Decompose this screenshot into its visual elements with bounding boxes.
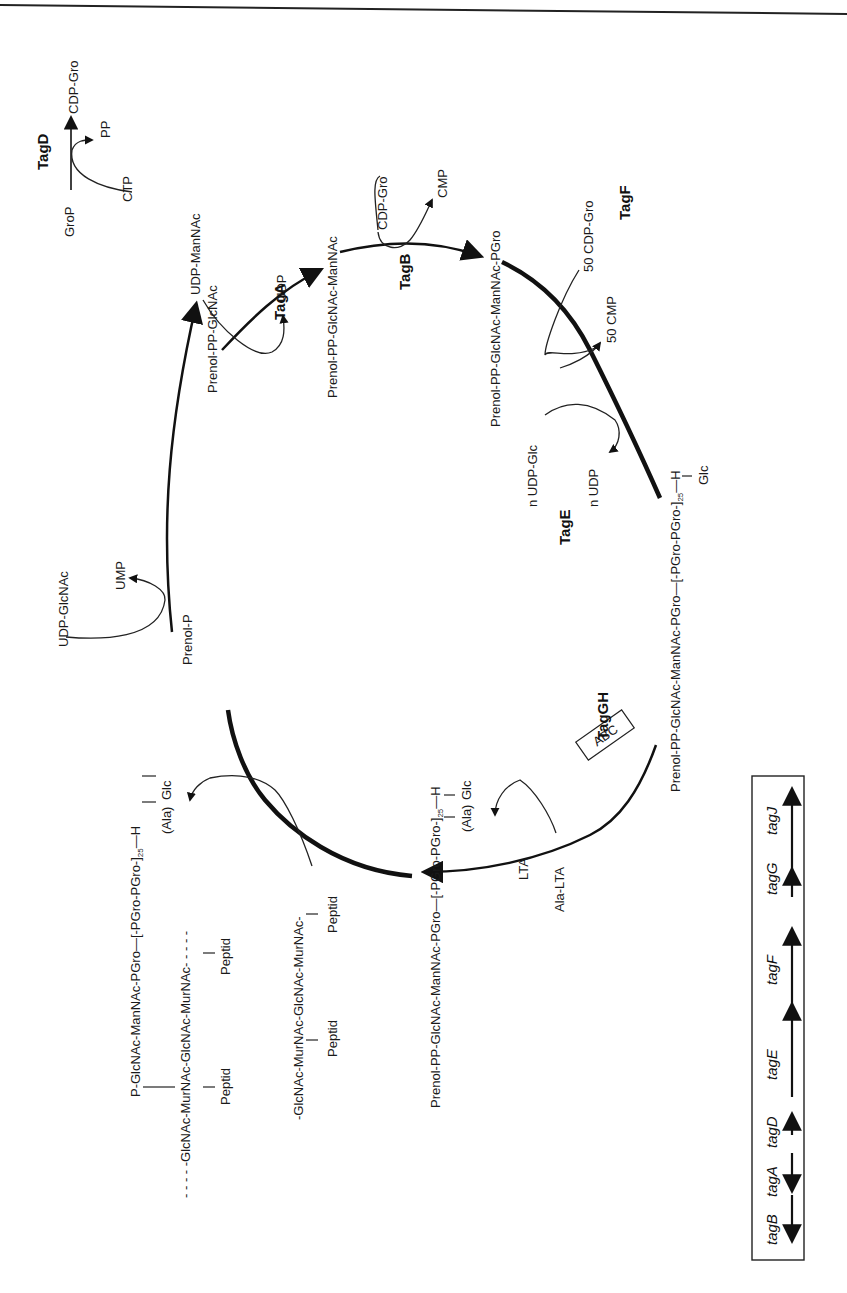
label-product-top-end: —H [128, 826, 143, 848]
label-acceptor-chain: -GlcNAc-MurNAc-GlcNAc-MurNAc- [291, 916, 306, 1120]
label-prenol-pp-glcnac: Prenol-PP-GlcNAc [205, 285, 220, 393]
svg-text:Prenol-PP-GlcNAc-ManNAc-PGro—[: Prenol-PP-GlcNAc-ManNAc-PGro—[-PGro-PGro… [668, 470, 685, 792]
label-product-peptid-2: Peptid [218, 1068, 233, 1105]
gene-label-tagf: tagF [763, 954, 780, 985]
label-product-chain: - - - - -GlcNAc-MurNAc-GlcNAc-MurNAc- - … [178, 931, 193, 1198]
label-product-peptid-1: Peptid [218, 938, 233, 975]
label-n-udp-glc: n UDP-Glc [525, 444, 540, 507]
svg-text:P-GlcNAc-ManNAc-PGro—[-PGro-PG: P-GlcNAc-ManNAc-PGro—[-PGro-PGro-]25—H [128, 826, 145, 1097]
label-glc-polymer-end: —H [668, 470, 683, 492]
label-ump: UMP [113, 561, 128, 590]
label-udp-mannac: UDP-ManNAc [188, 213, 203, 295]
ala-polymer-intermediate: Prenol-PP-GlcNAc-ManNAc-PGro—[-PGro-PGro… [428, 780, 474, 1108]
arc-ligation [228, 710, 412, 876]
label-udp-glcnac: UDP-GlcNAc [56, 571, 71, 647]
side-reactions [66, 176, 619, 866]
label-cdp-gro-tagd: CDP-Gro [66, 61, 81, 114]
label-pp: PP [98, 121, 113, 138]
label-product-top: P-GlcNAc-ManNAc-PGro—[-PGro-PGro-] [128, 857, 143, 1097]
enzyme-tagd: TagD [34, 133, 51, 170]
glc-polymer-intermediate: Prenol-PP-GlcNAc-ManNAc-PGro—[-PGro-PGro… [668, 465, 711, 792]
svg-text:Prenol-PP-GlcNAc-ManNAc-PGro—[: Prenol-PP-GlcNAc-ManNAc-PGro—[-PGro-PGro… [428, 786, 445, 1108]
label-glc-branch: Glc [696, 465, 711, 485]
label-grop: GroP [62, 207, 77, 237]
label-lta: LTA [516, 858, 531, 880]
label-udp: UDP [274, 275, 289, 302]
gene-label-tagj: tagJ [763, 806, 780, 835]
peptidoglycan-acceptor: -GlcNAc-MurNAc-GlcNAc-MurNAc- Peptid Pep… [291, 896, 340, 1120]
gene-label-taga: tagA [763, 1166, 780, 1197]
udp-glc-udp-arrow [545, 404, 619, 452]
label-glc-polymer: Prenol-PP-GlcNAc-ManNAc-PGro—[-PGro-PGro… [668, 502, 683, 792]
label-product-glc: Glc [159, 780, 174, 800]
label-acceptor-peptid-2: Peptid [325, 1020, 340, 1057]
label-ctp: CTP [120, 176, 135, 202]
teichoic-acid-pathway-diagram: TagD GroP CDP-Gro CTP PP ABC [0, 0, 847, 1293]
page-rule [0, 5, 847, 14]
enzyme-tage: TagE [556, 509, 573, 545]
label-ala-polymer-end: —H [428, 786, 443, 808]
enzyme-tagf: TagF [616, 185, 633, 220]
label-product-ala: (Ala) [159, 807, 174, 834]
transfer-arrow [190, 776, 312, 866]
label-cdp-gro: CDP-Gro [375, 177, 390, 230]
label-cmp-50: 50 CMP [604, 296, 619, 343]
enzyme-taggh: TagGH [594, 692, 611, 740]
enzyme-tagb: TagB [396, 253, 413, 290]
label-ala-branch: (Ala) [459, 805, 474, 832]
label-cmp: CMP [435, 169, 450, 198]
label-prenol-p: Prenol-P [180, 614, 195, 665]
label-n-udp: n UDP [586, 469, 601, 507]
label-glc-branch-2: Glc [459, 780, 474, 800]
label-ala-polymer: Prenol-PP-GlcNAc-ManNAc-PGro—[-PGro-PGro… [428, 818, 443, 1108]
label-acceptor-peptid-1: Peptid [325, 896, 340, 933]
peptidoglycan-product: P-GlcNAc-ManNAc-PGro—[-PGro-PGro-]25—H (… [128, 776, 233, 1198]
tagd-reaction: TagD GroP CDP-Gro CTP PP [34, 61, 135, 237]
gene-map: tagB tagA tagD tagE tagF tagG tagJ [752, 776, 804, 1260]
gene-label-tagg: tagG [763, 862, 780, 895]
gene-label-tagb: tagB [763, 1214, 780, 1245]
label-ala-lta: Ala-LTA [552, 867, 567, 912]
gene-label-tage: tagE [763, 1048, 780, 1080]
label-prenol-pp-glcnac-mannac: Prenol-PP-GlcNAc-ManNAc [325, 236, 340, 398]
arc-prenol-p-to-glcnac [167, 305, 196, 632]
label-prenol-pp-glcnac-mannac-pgro: Prenol-PP-GlcNAc-ManNAc-PGro [488, 231, 503, 428]
gene-label-tagd: tagD [763, 1116, 780, 1148]
label-cdp-gro-50: 50 CDP-Gro [581, 200, 596, 272]
ala-lta-lta-arrow [495, 780, 556, 833]
cycle-arcs [167, 244, 660, 877]
